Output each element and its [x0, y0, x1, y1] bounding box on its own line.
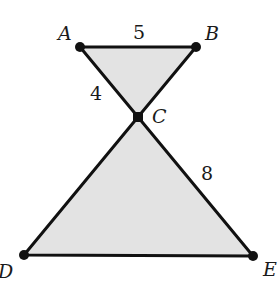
- length-ac: 4: [90, 82, 102, 104]
- triangle-dce: [24, 117, 253, 256]
- point-b-dot: [191, 42, 201, 52]
- label-a: A: [56, 22, 72, 44]
- label-d: D: [0, 260, 13, 282]
- geometry-diagram: A B C D E 5 4 8: [0, 0, 279, 283]
- label-b: B: [204, 22, 219, 44]
- length-ce: 8: [201, 162, 213, 184]
- point-a-dot: [75, 42, 85, 52]
- label-e: E: [262, 258, 277, 280]
- label-c: C: [152, 105, 167, 127]
- point-d-dot: [19, 250, 29, 260]
- length-ab: 5: [133, 21, 145, 43]
- point-c-dot: [133, 112, 143, 122]
- point-e-dot: [248, 251, 258, 261]
